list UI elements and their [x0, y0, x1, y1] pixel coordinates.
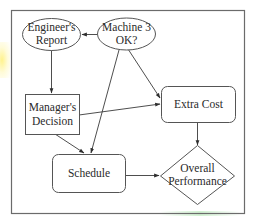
node-label-line: Machine 3 — [102, 21, 151, 33]
node-extra-cost[interactable]: Extra Cost — [162, 87, 236, 123]
node-label-line: Engineer's — [27, 21, 76, 34]
node-machine3-ok[interactable]: Machine 3 OK? — [98, 18, 156, 50]
node-engineers-report[interactable]: Engineer's Report — [23, 19, 81, 51]
node-label-line: Performance — [168, 175, 227, 187]
influence-diagram: Engineer's Report Machine 3 OK? Manager'… — [0, 0, 254, 223]
node-label-line: Overall — [180, 162, 214, 174]
node-label-line: OK? — [116, 34, 138, 46]
edge-managers-decision-to-extra-cost — [79, 104, 160, 115]
node-overall-performance[interactable]: Overall Performance — [161, 146, 235, 205]
node-schedule[interactable]: Schedule — [53, 155, 126, 193]
node-label-line: Report — [36, 34, 68, 47]
node-label-line: Manager's — [29, 101, 77, 114]
node-managers-decision[interactable]: Manager's Decision — [26, 95, 80, 135]
node-label-line: Schedule — [68, 167, 110, 179]
edge-machine3-to-extra-cost — [128, 49, 160, 98]
edge-machine3-to-schedule — [91, 50, 119, 153]
edge-managers-decision-to-schedule — [55, 134, 84, 153]
node-label-line: Extra Cost — [174, 98, 224, 110]
node-label-line: Decision — [32, 115, 73, 127]
